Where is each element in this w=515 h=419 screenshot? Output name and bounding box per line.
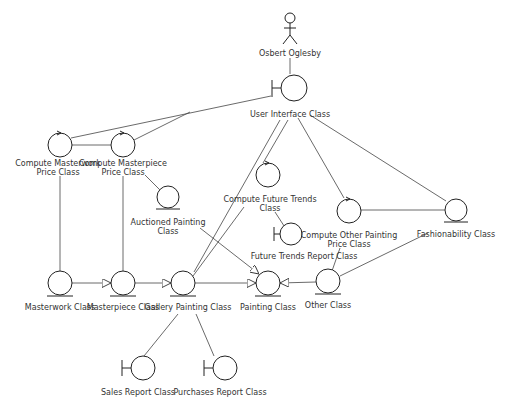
other-label: Other Class (305, 301, 351, 311)
assoc-ui-compute-masterwork (71, 96, 271, 138)
control-icon-compute-masterpiece[interactable] (111, 131, 135, 157)
painting-label: Painting Class (240, 303, 296, 313)
gen-other-painting (280, 282, 316, 283)
gallery-painting-label: Gallery Painting Class (145, 303, 232, 313)
control-icon-compute-masterwork[interactable] (48, 131, 72, 157)
future-trends-report-label: Future Trends Report Class (251, 252, 358, 262)
purchases-report-label: Purchases Report Class (173, 388, 266, 398)
entity-icon-fashionability[interactable] (444, 199, 468, 222)
entity-icon-gallery-painting[interactable] (170, 271, 196, 296)
control-icon-compute-future-trends[interactable] (256, 161, 280, 187)
boundary-icon-sales-report[interactable] (122, 356, 155, 380)
boundary-icon-user-interface[interactable] (272, 75, 307, 101)
assoc-gallery-sales (144, 314, 178, 356)
entity-icon-masterwork[interactable] (47, 271, 73, 296)
user-interface-class-label: User Interface Class (250, 110, 330, 120)
masterwork-label: Masterwork Class (25, 303, 95, 313)
compute-other-painting-label-2: Price Class (327, 240, 370, 250)
sales-report-label: Sales Report Class (101, 388, 175, 398)
assoc-ui-compute-masterpiece (134, 112, 190, 140)
fashionability-label: Fashionability Class (417, 230, 495, 240)
boundary-icon-future-trends-report[interactable] (274, 223, 302, 245)
boundary-icon-purchases-report[interactable] (204, 356, 237, 380)
entity-icon-auctioned-painting[interactable] (156, 186, 180, 209)
assoc-gallery-purchases (196, 314, 214, 356)
compute-masterwork-label-2: Price Class (36, 168, 79, 178)
compute-masterpiece-label-2: Price Class (101, 168, 144, 178)
entity-icon-masterpiece[interactable] (110, 271, 136, 296)
actor-label: Osbert Oglesby (259, 49, 321, 59)
control-icon-compute-other-painting[interactable] (337, 197, 361, 223)
gen-auctioned-painting (200, 228, 259, 274)
actor-stick-figure-icon (283, 13, 297, 44)
assoc-ui-future-trends (263, 120, 288, 163)
assoc-ui-fashionability (310, 115, 446, 201)
auctioned-painting-label-2: Class (157, 227, 178, 237)
compute-future-trends-label-2: Class (259, 204, 280, 214)
class-diagram-canvas (0, 0, 515, 419)
entity-icon-painting[interactable] (255, 271, 281, 296)
entity-icon-other[interactable] (315, 269, 341, 294)
assoc-ui-compute-other (298, 118, 344, 198)
